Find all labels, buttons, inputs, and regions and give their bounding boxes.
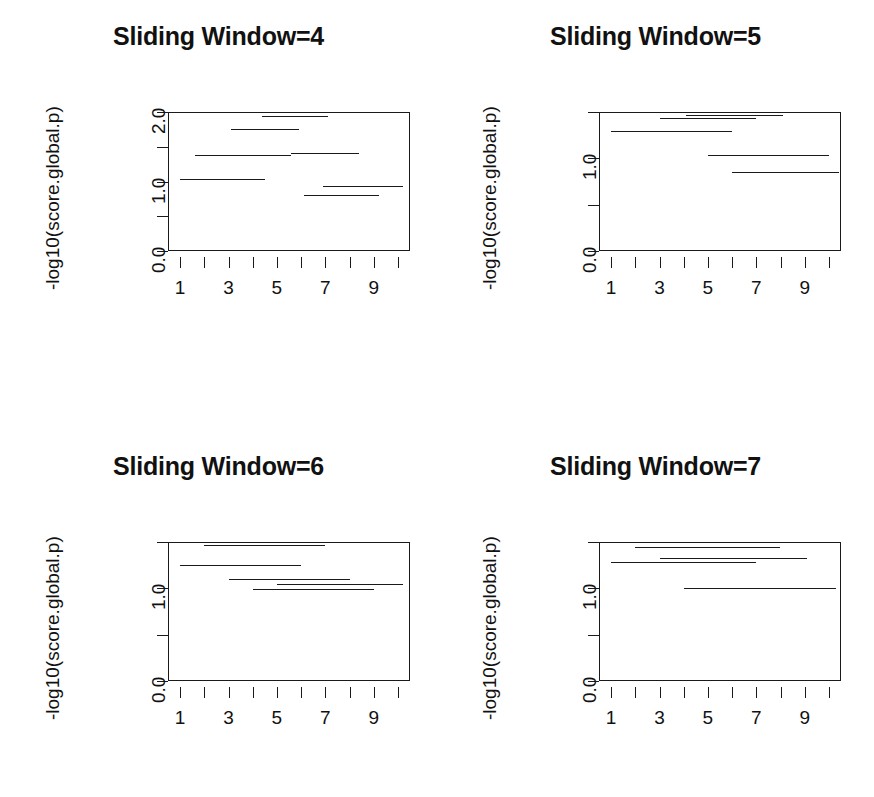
y-axis-tick-label: 1.0	[579, 154, 601, 180]
x-axis-tick-label: 7	[305, 277, 345, 299]
x-axis-tick-label: 5	[257, 277, 297, 299]
data-segment	[229, 579, 350, 580]
plot-area	[599, 112, 841, 251]
x-axis-tick	[660, 257, 661, 268]
x-axis-tick	[732, 687, 733, 698]
x-axis-tick-label: 3	[640, 707, 680, 729]
panel-title: Sliding Window=5	[437, 22, 874, 51]
x-axis-tick-label: 5	[257, 707, 297, 729]
x-axis-tick	[253, 257, 254, 268]
x-axis-tick	[325, 687, 326, 698]
x-axis-tick	[781, 257, 782, 268]
x-axis-tick	[180, 257, 181, 268]
x-axis-tick	[708, 687, 709, 698]
x-axis-tick-label: 7	[736, 277, 776, 299]
data-segment	[635, 547, 780, 548]
y-axis-label: -log10(score.global.p)	[42, 536, 64, 720]
y-axis-tick-label: 1.0	[148, 584, 170, 610]
y-axis-tick-label: 2.0	[148, 108, 170, 134]
y-axis-label: -log10(score.global.p)	[42, 106, 64, 290]
data-segment	[253, 589, 374, 590]
y-axis-tick	[157, 635, 168, 636]
x-axis-tick	[805, 257, 806, 268]
x-axis-tick	[781, 687, 782, 698]
data-segment	[686, 115, 783, 116]
x-axis-tick-label: 9	[785, 707, 825, 729]
x-axis-tick-label: 7	[736, 707, 776, 729]
y-axis-tick-label: 1.0	[579, 584, 601, 610]
x-axis-tick	[708, 257, 709, 268]
y-axis-tick	[157, 216, 168, 217]
x-axis-tick	[253, 687, 254, 698]
panel-title: Sliding Window=6	[0, 452, 437, 481]
x-axis-tick	[611, 687, 612, 698]
x-axis-tick	[635, 257, 636, 268]
x-axis-tick	[805, 687, 806, 698]
data-segment	[684, 588, 836, 589]
data-segment	[195, 155, 292, 156]
x-axis-tick-label: 9	[785, 277, 825, 299]
x-axis-tick	[829, 687, 830, 698]
y-axis-tick-label: 0.0	[579, 247, 601, 273]
data-segment	[180, 565, 301, 566]
panel-sliding-window-6: Sliding Window=6 -log10(score.global.p) …	[0, 430, 437, 797]
y-axis-tick	[157, 147, 168, 148]
data-segment	[262, 116, 327, 117]
x-axis-tick	[756, 687, 757, 698]
y-axis-label: -log10(score.global.p)	[479, 106, 501, 290]
x-axis-tick	[204, 257, 205, 268]
data-segment	[611, 562, 756, 563]
x-axis-tick-label: 5	[688, 277, 728, 299]
y-axis-tick	[157, 542, 168, 543]
data-segment	[291, 153, 359, 154]
y-axis-tick-label: 0.0	[148, 247, 170, 273]
x-axis-tick	[684, 687, 685, 698]
x-axis-tick	[350, 257, 351, 268]
data-segment	[708, 155, 829, 156]
data-segment	[611, 131, 732, 132]
panel-title: Sliding Window=7	[437, 452, 874, 481]
x-axis-tick	[301, 257, 302, 268]
x-axis-tick-label: 3	[209, 277, 249, 299]
x-axis-tick	[301, 687, 302, 698]
x-axis-tick	[229, 257, 230, 268]
data-segment	[180, 179, 265, 180]
x-axis-tick	[180, 687, 181, 698]
x-axis-tick	[277, 687, 278, 698]
y-axis-label: -log10(score.global.p)	[479, 536, 501, 720]
data-segment	[231, 129, 299, 130]
x-axis-tick	[635, 687, 636, 698]
x-axis-tick	[398, 687, 399, 698]
x-axis-tick-label: 1	[591, 707, 631, 729]
plot-area	[168, 112, 410, 251]
x-axis-tick	[374, 257, 375, 268]
figure-canvas: Sliding Window=4 -log10(score.global.p) …	[0, 0, 874, 797]
x-axis-tick-label: 1	[591, 277, 631, 299]
y-axis-tick	[588, 205, 599, 206]
x-axis-tick	[611, 257, 612, 268]
panel-title: Sliding Window=4	[0, 22, 437, 51]
x-axis-tick-label: 1	[160, 707, 200, 729]
panel-sliding-window-7: Sliding Window=7 -log10(score.global.p) …	[437, 430, 874, 797]
x-axis-tick	[204, 687, 205, 698]
x-axis-tick-label: 9	[354, 277, 394, 299]
x-axis-tick-label: 5	[688, 707, 728, 729]
data-segment	[660, 118, 757, 119]
data-segment	[277, 584, 403, 585]
data-segment	[204, 545, 325, 546]
y-axis-tick	[588, 635, 599, 636]
x-axis-tick	[374, 687, 375, 698]
data-segment	[732, 172, 838, 173]
x-axis-tick	[325, 257, 326, 268]
x-axis-tick	[398, 257, 399, 268]
data-segment	[304, 195, 379, 196]
y-axis-tick	[588, 112, 599, 113]
y-axis-tick	[588, 542, 599, 543]
y-axis-tick-label: 0.0	[579, 677, 601, 703]
x-axis-tick-label: 1	[160, 277, 200, 299]
y-axis-tick-label: 0.0	[148, 677, 170, 703]
data-segment	[660, 558, 808, 559]
x-axis-tick-label: 7	[305, 707, 345, 729]
x-axis-tick	[756, 257, 757, 268]
x-axis-tick-label: 3	[209, 707, 249, 729]
